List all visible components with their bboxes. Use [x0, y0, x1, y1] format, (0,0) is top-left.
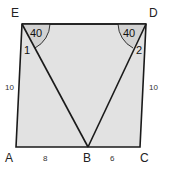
angle-label-2: 2 [136, 44, 142, 56]
side-label-BC: 6 [110, 154, 115, 163]
vertex-label-C: C [140, 151, 149, 165]
vertex-label-E: E [11, 6, 19, 20]
geometry-diagram: E D A B C 40 1 40 2 10 10 8 6 [0, 0, 169, 173]
vertex-label-D: D [149, 6, 158, 20]
vertex-label-A: A [5, 151, 13, 165]
side-label-AB: 8 [43, 154, 48, 163]
angle-label-D-40: 40 [123, 27, 135, 39]
side-label-AE: 10 [5, 83, 14, 92]
angle-label-1: 1 [24, 44, 30, 56]
angle-label-E-40: 40 [30, 27, 42, 39]
side-label-CD: 10 [149, 83, 158, 92]
vertex-label-B: B [83, 151, 91, 165]
